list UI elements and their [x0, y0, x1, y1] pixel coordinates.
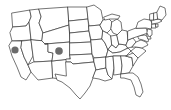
marker-dot-nevada[interactable]	[11, 46, 18, 53]
state-fl[interactable]	[121, 73, 143, 97]
state-mi-up[interactable]	[104, 14, 120, 20]
us-map-svg	[0, 0, 171, 110]
state-ny[interactable]	[136, 19, 153, 29]
state-mn[interactable]	[87, 5, 103, 26]
state-ri[interactable]	[156, 24, 158, 27]
state-ct[interactable]	[152, 24, 156, 28]
state-vt[interactable]	[150, 13, 154, 20]
state-ks[interactable]	[70, 42, 92, 55]
us-map-figure	[0, 0, 171, 110]
state-sd[interactable]	[69, 19, 89, 33]
state-boundaries	[9, 5, 166, 99]
state-az[interactable]	[28, 61, 53, 80]
marker-dot-colorado[interactable]	[55, 47, 63, 55]
state-nd[interactable]	[68, 7, 88, 21]
state-ga[interactable]	[121, 56, 133, 74]
state-me[interactable]	[157, 6, 166, 20]
state-ne[interactable]	[70, 31, 91, 43]
state-al[interactable]	[113, 56, 122, 75]
